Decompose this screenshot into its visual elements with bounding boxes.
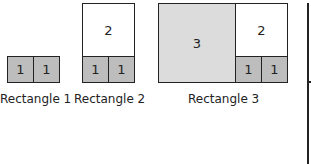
r3-cell-2: 2 — [235, 3, 288, 57]
r2-cell-2: 2 — [82, 3, 135, 57]
r2-cell-1a: 1 — [82, 56, 109, 83]
rectangle-3-label: Rectangle 3 — [188, 92, 258, 106]
r1-cell-1b: 1 — [33, 56, 60, 83]
r3-cell-3: 3 — [158, 3, 236, 83]
next-rectangle-edge — [307, 3, 309, 164]
r2-cell-1b: 1 — [108, 56, 135, 83]
r1-cell-1a: 1 — [7, 56, 34, 83]
rectangle-2-label: Rectangle 2 — [74, 92, 144, 106]
next-rectangle-tick — [307, 81, 311, 83]
r3-cell-1a: 1 — [235, 56, 262, 83]
rectangle-1-label: Rectangle 1 — [0, 92, 66, 106]
r3-cell-1b: 1 — [261, 56, 288, 83]
